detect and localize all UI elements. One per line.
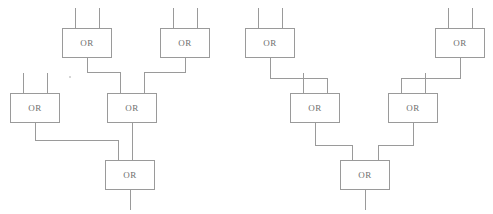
gate-label: OR xyxy=(123,171,136,180)
wire xyxy=(378,123,413,160)
wire xyxy=(401,58,460,93)
or-gate-left-top-1[interactable]: OR xyxy=(62,28,112,58)
gate-label: OR xyxy=(358,171,371,180)
or-gate-right-mid-2[interactable]: OR xyxy=(388,93,438,123)
gate-label: OR xyxy=(453,39,466,48)
wire xyxy=(35,123,118,160)
gate-label: OR xyxy=(406,104,419,113)
or-gate-right-out[interactable]: OR xyxy=(340,160,390,190)
or-gate-right-top-1[interactable]: OR xyxy=(245,28,295,58)
logic-circuit-diagram: OROROROROROROROROROR xyxy=(0,0,493,214)
or-gate-left-out[interactable]: OR xyxy=(105,160,155,190)
wire xyxy=(270,58,327,93)
gate-label: OR xyxy=(28,104,41,113)
wire xyxy=(315,123,352,160)
gate-label: OR xyxy=(263,39,276,48)
wire xyxy=(87,58,120,93)
or-gate-left-top-2[interactable]: OR xyxy=(160,28,210,58)
or-gate-left-mid-2[interactable]: OR xyxy=(107,93,157,123)
or-gate-right-top-2[interactable]: OR xyxy=(435,28,485,58)
gate-label: OR xyxy=(80,39,93,48)
or-gate-right-mid-1[interactable]: OR xyxy=(290,93,340,123)
gate-label: OR xyxy=(125,104,138,113)
scan-speck xyxy=(69,76,71,78)
gate-label: OR xyxy=(178,39,191,48)
or-gate-left-mid-1[interactable]: OR xyxy=(10,93,60,123)
gate-label: OR xyxy=(308,104,321,113)
wire xyxy=(144,58,185,93)
